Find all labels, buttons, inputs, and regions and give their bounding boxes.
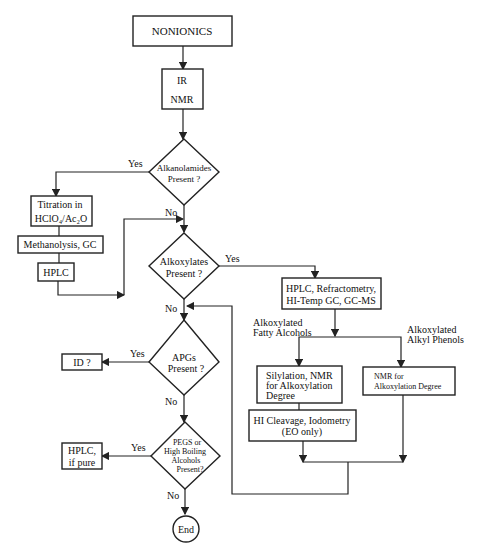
node-nmr-degree: NMR for Alkoxylation Degree [363,367,455,395]
edge-label-yes: Yes [225,253,240,264]
svg-text:PEGS or: PEGS or [173,438,202,447]
edge-label-no: No [167,490,179,501]
svg-text:(EO only): (EO only) [282,426,322,438]
node-methanolysis: Methanolysis, GC [18,236,103,253]
node-titration: Titration in HClO₄/Ac₂O [31,196,92,226]
svg-text:HI-Temp GC, GC-MS: HI-Temp GC, GC-MS [286,295,376,306]
svg-text:ID ?: ID ? [73,357,91,368]
node-hplc-left: HPLC [38,263,74,281]
node-hi-cleavage: HI Cleavage, Iodometry (EO only) [249,410,356,441]
svg-text:HPLC, Refractometry,: HPLC, Refractometry, [286,283,376,294]
svg-text:NMR: NMR [171,94,194,105]
node-hplc-pure: HPLC, if pure [62,443,102,469]
node-alkoxylates: Alkoxylates Present ? [149,233,219,299]
svg-text:APGs: APGs [172,352,196,363]
svg-text:Present ?: Present ? [166,268,203,279]
edge-label-no: No [165,396,177,407]
svg-text:Alkyl Phenols: Alkyl Phenols [407,334,464,345]
svg-text:Alkoxylates: Alkoxylates [160,256,208,267]
svg-text:End: End [178,524,194,535]
svg-text:High Boiling: High Boiling [164,447,206,456]
svg-text:Alkoxylation Degree: Alkoxylation Degree [374,382,442,391]
node-apgs: APGs Present ? [149,320,219,395]
svg-text:IR: IR [177,75,187,86]
svg-text:HPLC,: HPLC, [68,445,96,456]
edge-label-yes: Yes [130,348,145,359]
svg-text:Alkanolamides: Alkanolamides [157,163,212,173]
edge-label-yes: Yes [128,158,143,169]
svg-text:if pure: if pure [69,457,96,468]
node-end: End [173,516,199,542]
edge-label-no: No [165,207,177,218]
node-hplc-refractometry: HPLC, Refractometry, HI-Temp GC, GC-MS [282,278,381,309]
svg-text:Degree: Degree [266,390,295,401]
svg-text:Alcohols: Alcohols [172,456,201,465]
edge-label-no: No [165,303,177,314]
node-alkanolamides: Alkanolamides Present ? [149,139,219,205]
node-ir-nmr: IR NMR [162,69,203,109]
nonionics-flowchart: NONIONICS IR NMR Alkanolamides Present ?… [0,0,486,559]
svg-text:Fatty Alcohols: Fatty Alcohols [253,327,312,338]
node-id: ID ? [62,354,102,370]
edge-label-yes: Yes [131,442,146,453]
svg-text:Present ?: Present ? [168,174,201,184]
svg-text:NMR for: NMR for [374,372,404,381]
node-pegs: PEGS or High Boiling Alcohols Present? [151,422,220,489]
node-nonionics: NONIONICS [133,16,232,46]
svg-text:Methanolysis, GC: Methanolysis, GC [24,239,97,250]
svg-text:NONIONICS: NONIONICS [152,25,213,37]
node-silylation: Silylation, NMR for Alkoxylation Degree [257,366,342,403]
svg-text:Present ?: Present ? [168,363,205,374]
svg-text:Titration in: Titration in [38,199,83,210]
svg-text:HClO₄/Ac₂O: HClO₄/Ac₂O [35,213,88,224]
svg-text:Present?: Present? [176,465,204,474]
svg-text:HI Cleavage, Iodometry: HI Cleavage, Iodometry [254,415,351,426]
svg-text:HPLC: HPLC [43,267,69,278]
